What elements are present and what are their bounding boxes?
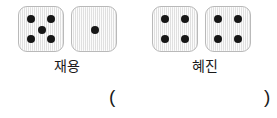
pip-dot bbox=[38, 26, 46, 34]
player-name-left: 재용 bbox=[18, 56, 116, 76]
answer-line: ( ) bbox=[0, 84, 277, 114]
player-name-right: 혜진 bbox=[152, 56, 257, 76]
pip-dot bbox=[214, 35, 222, 43]
die-player2-first bbox=[152, 6, 198, 52]
die-player1-first bbox=[18, 6, 64, 52]
pip-dot bbox=[234, 35, 242, 43]
pip-dot bbox=[27, 15, 35, 23]
pip-dot bbox=[47, 35, 55, 43]
pip-dot bbox=[47, 15, 55, 23]
pip-dot bbox=[181, 15, 189, 23]
pip-dot bbox=[214, 15, 222, 23]
player-group-left bbox=[18, 6, 117, 53]
pip-dot bbox=[181, 35, 189, 43]
player-group-right bbox=[152, 6, 251, 53]
pip-dot bbox=[161, 35, 169, 43]
pip-dot bbox=[161, 15, 169, 23]
player-name-labels: 재용 혜진 bbox=[0, 56, 277, 78]
die-player1-second bbox=[71, 6, 117, 52]
die-player2-second bbox=[205, 6, 251, 52]
dice-worksheet: 재용 혜진 ( ) bbox=[0, 0, 277, 118]
answer-close-paren: ) bbox=[264, 84, 270, 110]
pip-dot bbox=[27, 35, 35, 43]
answer-open-paren: ( bbox=[109, 84, 115, 110]
pip-dot bbox=[91, 26, 99, 34]
dice-row bbox=[0, 6, 277, 53]
pip-dot bbox=[234, 15, 242, 23]
